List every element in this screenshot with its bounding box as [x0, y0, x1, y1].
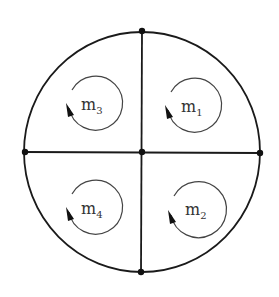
- node-top: [139, 28, 145, 34]
- mesh-loop-m4: m4: [66, 180, 123, 234]
- arrowhead-icon: [66, 207, 74, 221]
- node-bottom: [138, 269, 144, 275]
- mesh-label-main: m: [181, 97, 196, 116]
- svg-text:m3: m3: [81, 95, 103, 116]
- mesh-label-sub: 2: [200, 210, 206, 221]
- svg-text:m4: m4: [81, 199, 103, 220]
- mesh-loop-m2: m2: [168, 182, 226, 238]
- arrowhead-icon: [168, 210, 176, 224]
- mesh-label-sub: 1: [196, 107, 202, 118]
- svg-text:m1: m1: [181, 97, 203, 118]
- mesh-label-sub: 3: [96, 105, 102, 116]
- arrowhead-icon: [66, 103, 74, 117]
- mesh-label-main: m: [81, 199, 96, 218]
- diagram-svg: m3 m1 m4 m2: [0, 0, 279, 297]
- mesh-loop-m1: m1: [165, 78, 222, 132]
- svg-text:m2: m2: [185, 200, 207, 221]
- arrowhead-icon: [165, 105, 173, 119]
- node-center: [139, 149, 145, 155]
- mesh-loop-m3: m3: [66, 76, 123, 130]
- node-right: [257, 150, 263, 156]
- node-left: [22, 149, 28, 155]
- mesh-label-sub: 4: [96, 209, 102, 220]
- mesh-label-main: m: [81, 95, 96, 114]
- mesh-diagram: m3 m1 m4 m2: [0, 0, 279, 297]
- mesh-label-main: m: [185, 200, 200, 219]
